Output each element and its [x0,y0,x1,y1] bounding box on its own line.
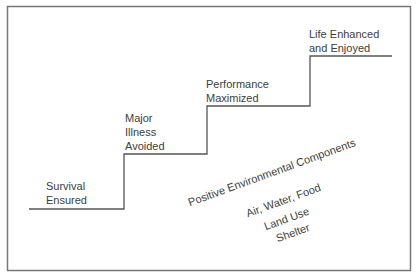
step-1-label: Survival Ensured [46,179,87,207]
step-4-label: Life Enhanced and Enjoyed [309,27,379,55]
step-3-label: Performance Maximized [206,77,269,105]
step-1-line1: Survival [46,179,87,193]
step-2-label: Major Illness Avoided [125,111,165,153]
step-4-line2: and Enjoyed [309,41,379,55]
step-3-line2: Maximized [206,91,269,105]
step-2-line1: Major [125,111,165,125]
step-1-line2: Ensured [46,193,87,207]
step-2-line2: Illness [125,125,165,139]
step-4-line1: Life Enhanced [309,27,379,41]
step-2-line3: Avoided [125,139,165,153]
step-3-line1: Performance [206,77,269,91]
